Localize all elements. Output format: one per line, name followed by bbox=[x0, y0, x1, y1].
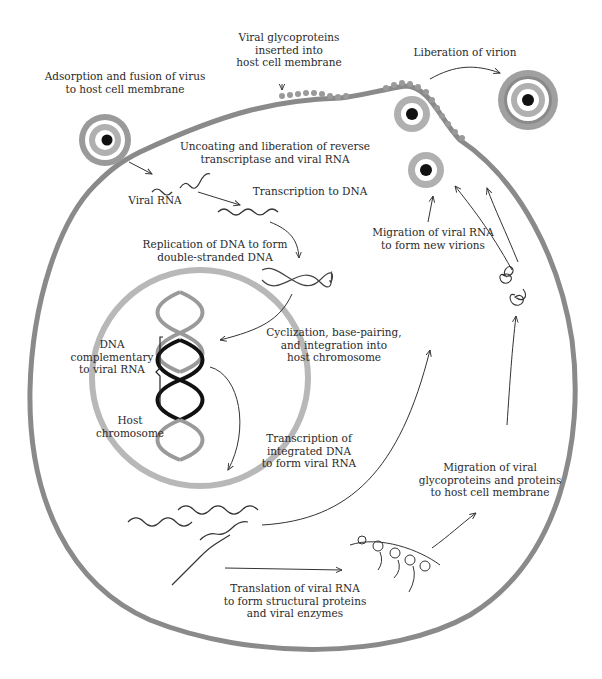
double-stranded-dna bbox=[262, 268, 333, 287]
label-migration-rna: Migration of viral RNA to form new virio… bbox=[358, 226, 508, 251]
label-dna-complementary: DNA complementary to viral RNA bbox=[62, 338, 162, 376]
label-adsorption: Adsorption and fusion of virus to host c… bbox=[20, 70, 230, 95]
label-host-chromosome: Host chromosome bbox=[90, 414, 170, 439]
viral-rna-transcripts bbox=[128, 506, 258, 585]
label-transcription-dna: Transcription to DNA bbox=[245, 185, 375, 198]
label-migration-glyco: Migration of viral glycoproteins and pro… bbox=[400, 461, 580, 499]
coiled-proteins bbox=[500, 267, 526, 305]
adsorbing-virus bbox=[79, 114, 131, 166]
label-translation: Translation of viral RNA to form structu… bbox=[215, 582, 375, 620]
label-transcription-integrated: Transcription of integrated DNA to form … bbox=[244, 432, 374, 470]
liberated-virion bbox=[498, 70, 558, 130]
label-uncoating: Uncoating and liberation of reverse tran… bbox=[165, 140, 385, 165]
label-glycoproteins-inserted: Viral glycoproteins inserted into host c… bbox=[224, 31, 354, 69]
label-viral-rna: Viral RNA bbox=[120, 194, 190, 207]
label-liberation: Liberation of virion bbox=[405, 46, 525, 59]
assembling-virion bbox=[408, 152, 444, 188]
label-replication: Replication of DNA to form double-strand… bbox=[130, 238, 300, 263]
label-cyclization: Cyclization, base-pairing, and integrati… bbox=[244, 326, 424, 364]
budding-virion bbox=[394, 96, 430, 132]
